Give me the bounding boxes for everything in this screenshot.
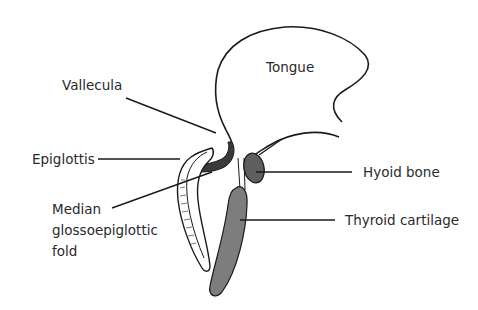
thyroid-cartilage-shape [210, 187, 247, 296]
vallecula-leader [126, 98, 216, 133]
median-fold-label-line3: fold [52, 243, 77, 259]
tongue-outline [216, 27, 369, 154]
hyoid-bone-label: Hyoid bone [363, 164, 440, 180]
vallecula-label: Vallecula [62, 77, 122, 93]
median-fold-label-line1: Median [52, 201, 101, 217]
median-fold-label-line2: glossoepiglottic [52, 222, 158, 238]
hyoid-leader-top [259, 139, 282, 155]
epiglottis-label: Epiglottis [32, 151, 95, 167]
tongue-label: Tongue [266, 59, 314, 75]
thyroid-cartilage-label: Thyroid cartilage [345, 212, 459, 228]
